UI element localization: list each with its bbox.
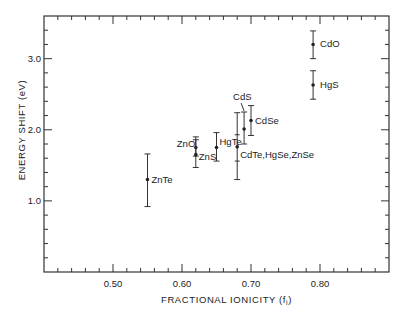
y-tick-label: 2.0: [28, 124, 41, 135]
point-marker: [242, 127, 246, 131]
point-marker: [311, 43, 315, 47]
point-marker: [311, 83, 315, 87]
point-label: CdSe: [255, 115, 279, 126]
point-marker: [146, 178, 150, 182]
x-tick-label: 0.60: [173, 278, 192, 289]
x-tick-label: 0.70: [242, 278, 261, 289]
leader-line: [241, 103, 244, 111]
x-tick-label: 0.80: [311, 278, 330, 289]
scatter-chart: 0.500.600.700.80 1.02.03.0 ZnTeZnOZnSHgT…: [0, 0, 409, 322]
data-points: ZnTeZnOZnSHgTeCdTe,HgSe,ZnSeCdSCdSeCdOHg…: [145, 31, 340, 207]
point-label: CdO: [320, 38, 340, 49]
point-marker: [235, 145, 239, 149]
data-point: ZnTe: [145, 154, 173, 207]
y-tick-label: 1.0: [28, 195, 41, 206]
y-tick-labels: 1.02.03.0: [28, 53, 41, 206]
data-point: CdO: [310, 31, 340, 59]
data-point: HgS: [310, 71, 338, 99]
data-point: CdSe: [248, 106, 279, 136]
point-label: CdS: [233, 91, 251, 102]
point-label: HgS: [320, 79, 338, 90]
x-axis-title: FRACTIONAL IONICITY (fi): [161, 294, 292, 306]
point-label: HgTe: [220, 136, 242, 147]
point-label: ZnO: [177, 138, 195, 149]
point-label: CdTe,HgSe,ZnSe: [240, 149, 314, 160]
point-marker: [215, 146, 219, 150]
x-tick-label: 0.50: [104, 278, 123, 289]
point-label: ZnS: [199, 151, 216, 162]
y-axis-title: ENERGY SHIFT (eV): [16, 80, 27, 181]
data-point: ZnS: [193, 140, 216, 168]
point-marker: [194, 153, 198, 157]
point-label: ZnTe: [152, 174, 173, 185]
x-tick-labels: 0.500.600.700.80: [104, 278, 330, 289]
point-marker: [249, 119, 253, 123]
y-tick-label: 3.0: [28, 53, 41, 64]
